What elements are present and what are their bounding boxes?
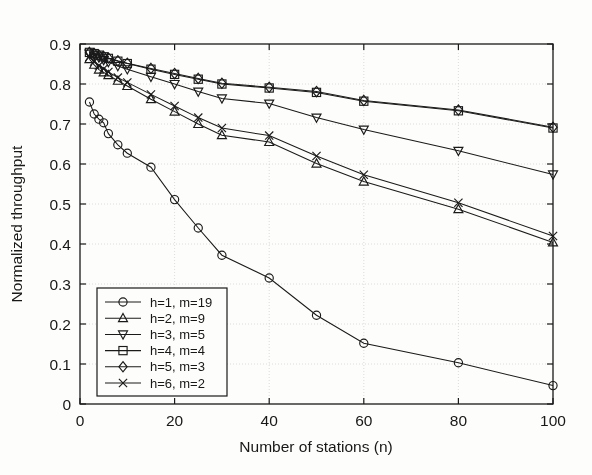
legend-item-label: h=3, m=5 bbox=[150, 327, 205, 342]
x-tick-label: 20 bbox=[166, 412, 184, 429]
y-tick-label: 0.1 bbox=[49, 356, 71, 373]
y-tick-label: 0.5 bbox=[49, 196, 71, 213]
y-tick-label: 0 bbox=[62, 396, 71, 413]
chart-figure: 020406080100 00.10.20.30.40.50.60.70.80.… bbox=[0, 0, 592, 475]
legend-item-label: h=4, m=4 bbox=[150, 343, 205, 358]
y-tick-label: 0.6 bbox=[49, 156, 71, 173]
y-axis-title: Normalized throughput bbox=[8, 145, 25, 303]
x-tick-label: 40 bbox=[261, 412, 279, 429]
x-tick-label: 100 bbox=[540, 412, 566, 429]
y-tick-label: 0.7 bbox=[49, 116, 71, 133]
y-tick-label: 0.8 bbox=[49, 76, 71, 93]
legend[interactable]: h=1, m=19h=2, m=9h=3, m=5h=4, m=4h=5, m=… bbox=[97, 288, 227, 396]
y-tick-label: 0.9 bbox=[49, 36, 71, 53]
x-tick-label: 0 bbox=[76, 412, 85, 429]
y-tick-label: 0.2 bbox=[49, 316, 71, 333]
x-tick-label: 60 bbox=[355, 412, 373, 429]
legend-item-label: h=6, m=2 bbox=[150, 376, 205, 391]
y-tick-label: 0.4 bbox=[49, 236, 71, 253]
legend-item-label: h=5, m=3 bbox=[150, 359, 205, 374]
legend-item-label: h=2, m=9 bbox=[150, 311, 205, 326]
y-tick-label: 0.3 bbox=[49, 276, 71, 293]
x-axis-title: Number of stations (n) bbox=[239, 438, 392, 455]
legend-item-label: h=1, m=19 bbox=[150, 295, 212, 310]
x-tick-label: 80 bbox=[450, 412, 468, 429]
